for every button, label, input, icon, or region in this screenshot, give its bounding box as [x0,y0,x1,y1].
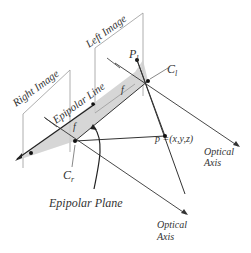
epipolar-diagram: Left Image Right Image Epipolar Line f f… [0,0,251,253]
point-epipole [29,151,33,155]
point-cl [146,79,150,83]
left-image-label: Left Image [82,12,128,50]
point-p-label: p =(x,y,z) [154,133,194,145]
cl-label: Cl [167,62,178,78]
pl-label: Pl [128,47,139,63]
optical-axis-1-line1: Optical [204,146,234,157]
epipolar-plane-label: Epipolar Plane [48,196,123,210]
optical-axis-left-arrow [233,141,240,147]
point-line-end [91,102,95,106]
optical-axis-2-line2: Axis [156,231,174,242]
ray-pl-to-p2 [137,60,165,136]
optical-axis-right-arrow [181,209,188,215]
cr-label: Cr [63,168,75,184]
optical-axis-2-line1: Optical [157,219,187,230]
f-tick-left-a [107,58,120,68]
point-cr [73,139,77,143]
epipolar-plane-pointer [94,127,100,189]
ray-cr-to-p [75,136,165,141]
diagram-canvas: Left Image Right Image Epipolar Line f f… [0,0,251,253]
cr-pointer [72,145,75,167]
cl-pointer [150,68,168,79]
optical-axis-1-line2: Axis [203,157,221,168]
